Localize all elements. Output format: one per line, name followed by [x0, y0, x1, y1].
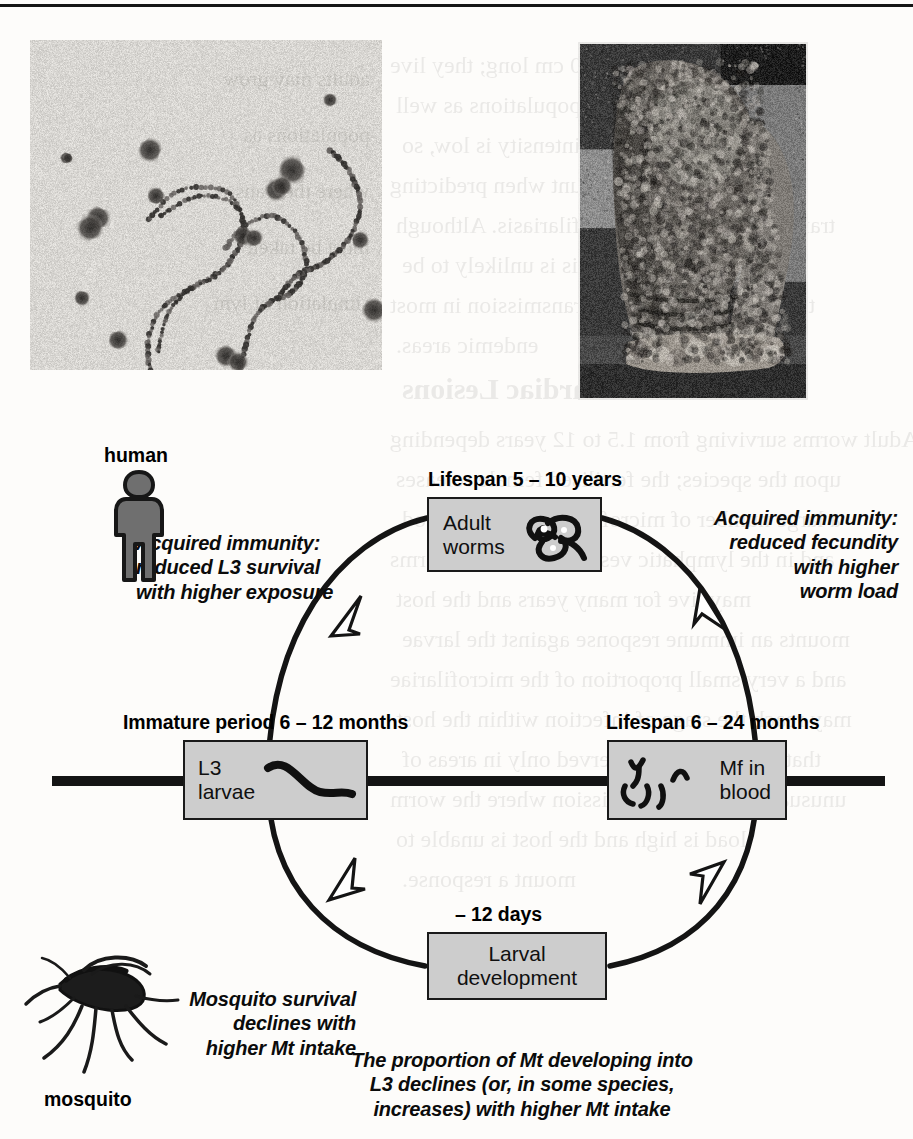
caption-larval-development-days: – 12 days [455, 903, 542, 926]
l3-larva-icon [258, 756, 362, 810]
note-mt-to-l3-proportion: The proportion of Mt developing into L3 … [327, 1048, 717, 1121]
elephantiasis-leg-photo [578, 42, 808, 400]
node-l3-larvae-label: L3 larvae [198, 756, 255, 803]
caption-adult-worms-lifespan: Lifespan 5 – 10 years [428, 468, 622, 491]
page-top-rule [0, 4, 913, 7]
caption-l3-immature-period: Immature period 6 – 12 months [123, 711, 408, 734]
arrow-mf-to-larval-development [690, 862, 724, 904]
microfilaria-icon [617, 752, 701, 812]
node-larval-development[interactable]: Larval development [427, 932, 607, 1000]
arrow-larval-dev-to-l3 [329, 858, 365, 900]
node-mf-in-blood-label: Mf in blood [720, 756, 771, 803]
node-adult-worms[interactable]: Adult worms [427, 497, 602, 572]
node-adult-worms-label: Adult worms [443, 511, 505, 558]
note-acquired-immunity-l3-survival: Acquired immunity: reduced L3 survival w… [136, 531, 386, 604]
mosquito-icon [22, 940, 202, 1090]
human-figure-icon [106, 468, 172, 584]
microfilariae-blood-smear-photo [30, 40, 382, 370]
adult-worm-coil-icon [514, 508, 592, 566]
note-acquired-immunity-fecundity: Acquired immunity: reduced fecundity wit… [648, 506, 898, 604]
filariasis-life-cycle-diagram: Adult worms Lifespan 5 – 10 years L3 lar… [0, 400, 913, 1139]
caption-mf-lifespan: Lifespan 6 – 24 months [606, 711, 819, 734]
organism-label-human: human [104, 444, 168, 467]
node-mf-in-blood[interactable]: Mf in blood [607, 740, 787, 820]
organism-label-mosquito: mosquito [44, 1088, 132, 1111]
node-l3-larvae[interactable]: L3 larvae [183, 740, 368, 820]
bleedthrough-text-line: endemic areas. [396, 332, 539, 359]
node-larval-development-label: Larval development [429, 942, 605, 989]
